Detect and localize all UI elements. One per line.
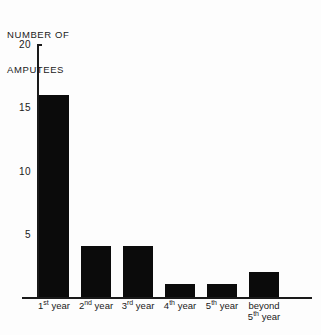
x-tick-label: 1st year — [38, 300, 70, 311]
x-tick-label-tail: year — [175, 300, 196, 311]
x-tick-label: 3rd year — [122, 300, 155, 311]
x-tick-label-tail: year — [133, 300, 154, 311]
x-tick-label-tail: year — [92, 300, 113, 311]
bar — [123, 246, 153, 297]
x-tick-label: beyond5th year — [248, 300, 280, 322]
y-axis-tick-labels: 5101520 — [0, 0, 31, 335]
x-tick-label: 2nd year — [79, 300, 113, 311]
x-axis-line — [22, 297, 312, 299]
y-tick-label: 5 — [25, 228, 31, 239]
x-tick-label: 5th year — [206, 300, 238, 311]
y-tick-label: 20 — [19, 39, 31, 50]
bar-chart: NUMBER OF AMPUTEES 5101520 1st year2nd y… — [0, 0, 321, 335]
y-tick-label: 15 — [19, 102, 31, 113]
x-tick-label-tail: year — [217, 300, 238, 311]
x-axis-tick-labels: 1st year2nd year3rd year4th year5th year… — [0, 300, 321, 335]
y-tick-label: 10 — [19, 165, 31, 176]
bar — [39, 95, 69, 297]
x-tick-label-line2: 5th year — [248, 311, 280, 322]
plot-area — [38, 44, 313, 297]
bar — [249, 272, 279, 297]
bar — [81, 246, 111, 297]
x-tick-label-ordinal: nd — [84, 299, 92, 306]
x-tick-label: 4th year — [164, 300, 196, 311]
bar — [207, 284, 237, 297]
x-tick-label-tail: year — [49, 300, 70, 311]
bar — [165, 284, 195, 297]
